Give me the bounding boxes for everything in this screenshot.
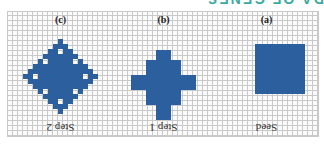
filled-cell [68, 79, 73, 84]
filled-cell [53, 69, 58, 74]
filled-cell [295, 79, 300, 84]
filled-cell [78, 59, 83, 64]
filled-cell [63, 44, 68, 49]
header-text: DA OF GENES [206, 0, 324, 7]
filled-cell [88, 74, 93, 79]
filled-cell [295, 84, 300, 89]
filled-cell [270, 69, 275, 74]
filled-cell [270, 74, 275, 79]
filled-cell [285, 79, 290, 84]
filled-cell [260, 84, 265, 89]
filled-cell [275, 44, 280, 49]
filled-cell [156, 115, 161, 120]
filled-cell [260, 44, 265, 49]
filled-cell [265, 69, 270, 74]
filled-cell [43, 64, 48, 69]
filled-cell [161, 70, 166, 75]
filled-cell [58, 54, 63, 59]
filled-cell [83, 79, 88, 84]
filled-cell [255, 49, 260, 54]
filled-cell [146, 60, 151, 65]
filled-cell [156, 90, 161, 95]
filled-cell [151, 95, 156, 100]
filled-cell [151, 90, 156, 95]
filled-cell [181, 85, 186, 90]
filled-cell [156, 55, 161, 60]
filled-cell [53, 104, 58, 109]
filled-cell [295, 89, 300, 94]
filled-cell [270, 89, 275, 94]
filled-cell [265, 89, 270, 94]
filled-cell [300, 59, 305, 64]
filled-cell [290, 84, 295, 89]
filled-cell [48, 89, 53, 94]
filled-cell [161, 115, 166, 120]
filled-cell [260, 69, 265, 74]
filled-cell [161, 85, 166, 90]
filled-cell [280, 49, 285, 54]
filled-cell [161, 80, 166, 85]
filled-cell [166, 95, 171, 100]
filled-cell [43, 54, 48, 59]
filled-cell [186, 75, 191, 80]
filled-cell [280, 89, 285, 94]
filled-cell [28, 69, 33, 74]
filled-cell [78, 64, 83, 69]
filled-cell [161, 95, 166, 100]
filled-cell [161, 50, 166, 55]
filled-cell [48, 59, 53, 64]
filled-cell [73, 84, 78, 89]
filled-cell [260, 54, 265, 59]
filled-cell [93, 74, 98, 79]
filled-cell [161, 110, 166, 115]
filled-cell [171, 65, 176, 70]
filled-cell [166, 85, 171, 90]
filled-cell [78, 79, 83, 84]
filled-cell [141, 80, 146, 85]
filled-cell [63, 54, 68, 59]
filled-cell [255, 59, 260, 64]
filled-cell [131, 75, 136, 80]
filled-cell [63, 49, 68, 54]
filled-cell [48, 64, 53, 69]
filled-cell [48, 74, 53, 79]
filled-cell [38, 79, 43, 84]
filled-cell [156, 105, 161, 110]
filled-cell [68, 94, 73, 99]
filled-cell [68, 49, 73, 54]
filled-cell [48, 79, 53, 84]
filled-cell [156, 70, 161, 75]
filled-cell [78, 69, 83, 74]
filled-cell [28, 74, 33, 79]
filled-cell [68, 99, 73, 104]
filled-cell [300, 74, 305, 79]
filled-cell [295, 54, 300, 59]
filled-cell [285, 64, 290, 69]
filled-cell [270, 59, 275, 64]
filled-cell [166, 115, 171, 120]
filled-cell [300, 44, 305, 49]
filled-cell [166, 75, 171, 80]
filled-cell [63, 104, 68, 109]
filled-cell [280, 44, 285, 49]
filled-cell [68, 59, 73, 64]
filled-cell [58, 89, 63, 94]
filled-cell [58, 94, 63, 99]
filled-cell [58, 59, 63, 64]
filled-cell [68, 54, 73, 59]
filled-cell [260, 64, 265, 69]
filled-cell [63, 64, 68, 69]
filled-cell [270, 54, 275, 59]
filled-cell [280, 79, 285, 84]
filled-cell [73, 64, 78, 69]
filled-cell [270, 49, 275, 54]
filled-cell [83, 84, 88, 89]
filled-cell [280, 84, 285, 89]
filled-cell [265, 44, 270, 49]
filled-cell [280, 59, 285, 64]
filled-cell [48, 99, 53, 104]
filled-cell [33, 79, 38, 84]
filled-cell [300, 69, 305, 74]
filled-cell [181, 75, 186, 80]
filled-cell [270, 84, 275, 89]
